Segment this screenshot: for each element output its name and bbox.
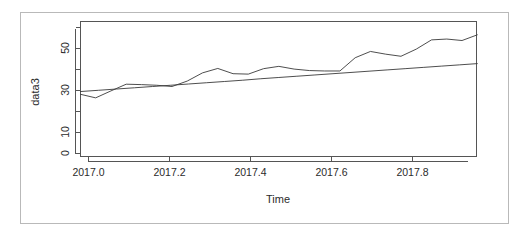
y-tick-label-0: 0 [59, 150, 71, 156]
x-tick-label-2017-6: 2017.6 [315, 166, 347, 178]
x-tick-label-2017-8: 2017.8 [396, 166, 428, 178]
y-tick-label-10: 10 [59, 126, 71, 138]
series-line-path [80, 35, 477, 98]
screenshot-root: 0 10 30 50 data3 2017.0 2017.2 2017.4 20… [0, 0, 528, 239]
x-axis-title: Time [266, 193, 290, 205]
y-tick-label-50: 50 [59, 42, 71, 54]
y-axis: 0 10 30 50 [59, 28, 81, 156]
trend-line-path [80, 64, 477, 92]
plot-area-box [81, 22, 477, 157]
x-tick-label-2017-0: 2017.0 [72, 166, 104, 178]
chart-canvas: 0 10 30 50 data3 2017.0 2017.2 2017.4 20… [0, 0, 528, 239]
x-tick-label-2017-4: 2017.4 [234, 166, 266, 178]
y-axis-title: data3 [29, 78, 41, 106]
y-tick-label-30: 30 [59, 84, 71, 96]
x-tick-label-2017-2: 2017.2 [153, 166, 185, 178]
x-axis: 2017.0 2017.2 2017.4 2017.6 2017.8 [72, 157, 467, 179]
